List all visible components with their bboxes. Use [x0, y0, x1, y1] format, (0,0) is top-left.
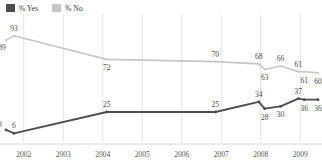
data-point-label: 61	[295, 59, 303, 68]
x-axis-tick-labels: 20022003200420052006200720082009	[0, 150, 322, 164]
plot-area	[0, 14, 322, 148]
data-point-label: 93	[10, 23, 18, 32]
data-point-marker[interactable]	[297, 71, 299, 73]
data-point-marker[interactable]	[257, 101, 260, 104]
x-axis-tick: 2006	[174, 150, 189, 159]
data-point-label: 37	[295, 86, 303, 95]
data-point-label: 36	[300, 103, 308, 112]
data-point-label: 66	[277, 54, 285, 63]
plot-svg	[0, 14, 322, 148]
legend-item-no[interactable]: % No	[52, 4, 83, 13]
data-point-marker[interactable]	[106, 58, 108, 60]
series-line	[6, 36, 318, 73]
data-point-marker[interactable]	[214, 61, 216, 63]
x-axis-tick: 2007	[214, 150, 229, 159]
data-point-marker[interactable]	[303, 71, 305, 73]
data-point-marker[interactable]	[317, 72, 319, 74]
series-line	[6, 99, 318, 134]
data-point-marker[interactable]	[263, 107, 266, 110]
data-point-marker[interactable]	[317, 98, 320, 101]
data-point-label: 70	[212, 49, 220, 58]
data-point-label: 60	[314, 76, 322, 85]
data-point-label: 72	[103, 63, 111, 72]
data-point-marker[interactable]	[303, 98, 306, 101]
chart-legend: % Yes % No	[6, 2, 83, 14]
data-point-marker[interactable]	[5, 39, 7, 41]
data-point-marker[interactable]	[279, 65, 281, 67]
data-point-label: 9	[0, 119, 2, 128]
legend-item-yes[interactable]: % Yes	[6, 4, 38, 13]
data-point-marker[interactable]	[105, 111, 108, 114]
data-point-marker[interactable]	[279, 105, 282, 108]
x-axis-tick: 2009	[293, 150, 308, 159]
data-point-marker[interactable]	[13, 35, 15, 37]
x-axis-tick: 2002	[16, 150, 31, 159]
data-point-marker[interactable]	[5, 129, 8, 132]
data-point-marker[interactable]	[258, 63, 260, 65]
square-swatch-icon	[6, 4, 15, 12]
data-point-label: 28	[261, 112, 269, 121]
data-point-label: 34	[255, 89, 263, 98]
legend-item-label: % No	[65, 4, 83, 13]
chart-container: % Yes % No 20022003200420052006200720082…	[0, 0, 322, 166]
data-point-label: 63	[261, 73, 269, 82]
data-point-label: 30	[277, 110, 285, 119]
data-point-label: 68	[255, 51, 263, 60]
data-point-marker[interactable]	[264, 68, 266, 70]
data-point-marker[interactable]	[214, 111, 217, 114]
data-point-label: 36	[314, 103, 322, 112]
data-point-marker[interactable]	[297, 97, 300, 100]
x-axis-tick: 2005	[135, 150, 150, 159]
data-point-label: 25	[103, 100, 111, 109]
data-point-label: 6	[12, 121, 16, 130]
data-point-label: 61	[300, 75, 308, 84]
data-point-marker[interactable]	[12, 132, 15, 135]
x-axis-tick: 2004	[95, 150, 110, 159]
x-axis-tick: 2008	[253, 150, 268, 159]
data-point-label: 25	[212, 100, 220, 109]
square-swatch-icon	[52, 4, 61, 12]
x-axis-tick: 2003	[56, 150, 71, 159]
data-point-label: 89	[0, 43, 6, 52]
legend-item-label: % Yes	[19, 4, 38, 13]
